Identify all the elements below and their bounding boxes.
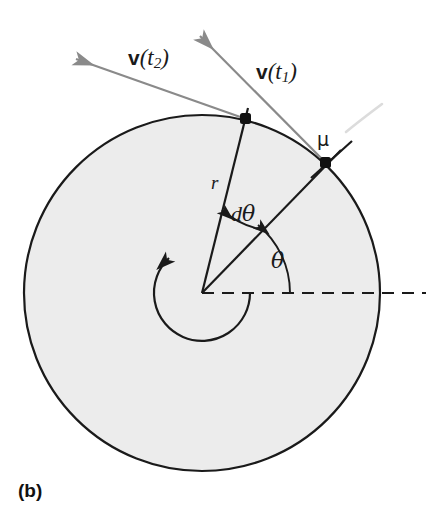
velocity-t1-label: v(t1) bbox=[256, 60, 297, 85]
rim-point-t2 bbox=[240, 113, 251, 124]
d-theta-symbol-part: θ bbox=[242, 201, 255, 226]
theta-label: θ bbox=[271, 250, 284, 272]
figure-panel-b: v(t2) v(t1) μ r dθ θ (b) bbox=[0, 0, 429, 518]
velocity-t1-bold-v: v bbox=[256, 60, 268, 83]
d-theta-label: dθ bbox=[231, 203, 255, 225]
velocity-t2-paren-close: ) bbox=[161, 45, 169, 70]
d-theta-d-part: d bbox=[231, 201, 242, 226]
scan-artifact-line bbox=[346, 104, 382, 132]
velocity-t2-bold-v: v bbox=[128, 46, 140, 69]
rim-point-mu-t1 bbox=[320, 157, 331, 168]
mu-label: μ bbox=[317, 130, 329, 149]
velocity-t1-paren-close: ) bbox=[289, 59, 297, 84]
velocity-t2-label: v(t2) bbox=[128, 46, 169, 71]
radius-label: r bbox=[211, 173, 218, 192]
panel-label: (b) bbox=[18, 481, 42, 500]
diagram-canvas bbox=[0, 0, 429, 518]
